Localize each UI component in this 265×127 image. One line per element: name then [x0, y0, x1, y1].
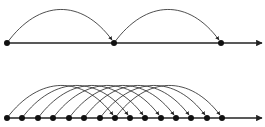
point-dot — [219, 115, 225, 121]
point-dot — [35, 115, 41, 121]
jump-arc — [7, 9, 112, 43]
point-dot — [112, 115, 118, 121]
point-dot — [127, 115, 133, 121]
point-dot — [66, 115, 72, 121]
jump-arc — [22, 85, 128, 118]
point-dot — [81, 115, 87, 121]
point-dot — [4, 40, 10, 46]
point-dot — [19, 115, 25, 121]
point-dot — [218, 40, 224, 46]
point-dot — [204, 115, 210, 121]
number-line-diagram — [0, 0, 265, 127]
jump-arc — [114, 9, 219, 43]
point-dot — [111, 40, 117, 46]
jump-arc — [7, 85, 113, 118]
point-dot — [188, 115, 194, 121]
point-dot — [142, 115, 148, 121]
top-number-line — [4, 9, 262, 46]
point-dot — [158, 115, 164, 121]
point-dot — [173, 115, 179, 121]
point-dot — [4, 115, 10, 121]
point-dot — [97, 115, 103, 121]
point-dot — [50, 115, 56, 121]
bottom-number-line — [4, 85, 262, 121]
jump-arc — [53, 85, 159, 118]
